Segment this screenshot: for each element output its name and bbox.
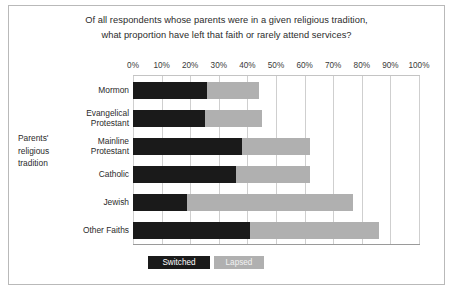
legend-label-lapsed: Lapsed (226, 258, 253, 267)
category-label-catholic: Catholic (11, 169, 129, 180)
bar-segment-lapsed (236, 166, 310, 183)
gridline-60 (305, 76, 306, 244)
bar-row (133, 194, 419, 211)
bar-segment-lapsed (205, 110, 262, 127)
bar-row (133, 110, 419, 127)
chart-title: Of all respondents whose parents were in… (30, 13, 423, 43)
gridline-100 (419, 76, 420, 244)
category-label-line: Evangelical (11, 108, 129, 119)
chart-title-line-2: what proportion have left that faith or … (30, 28, 423, 43)
category-label-line: Protestant (11, 118, 129, 129)
bar-segment-switched (133, 166, 236, 183)
category-label-evangelical-protestant: EvangelicalProtestant (11, 108, 129, 129)
category-label-mormon: Mormon (11, 85, 129, 96)
legend-item-lapsed: Lapsed (214, 256, 264, 269)
bar-segment-switched (133, 194, 187, 211)
category-label-line: Jewish (11, 197, 129, 208)
category-label-line: Protestant (11, 146, 129, 157)
bar-segment-lapsed (187, 194, 353, 211)
bar-row (133, 166, 419, 183)
chart-legend: Switched Lapsed (148, 256, 264, 269)
bar-segment-switched (133, 222, 250, 239)
bar-row (133, 222, 419, 239)
gridline-80 (362, 76, 363, 244)
y-axis-category-labels: MormonEvangelicalProtestantMainlineProte… (5, 76, 129, 244)
gridline-40 (247, 76, 248, 244)
x-axis-line (133, 244, 420, 245)
legend-label-switched: Switched (162, 258, 195, 267)
category-label-jewish: Jewish (11, 197, 129, 208)
gridline-0 (133, 76, 134, 244)
gridline-50 (276, 76, 277, 244)
gridline-10 (162, 76, 163, 244)
gridline-70 (333, 76, 334, 244)
bar-segment-lapsed (207, 82, 258, 99)
legend-item-switched: Switched (148, 256, 210, 269)
bar-segment-switched (133, 110, 205, 127)
x-axis-tick-100: 100% (399, 61, 439, 70)
category-label-mainline-protestant: MainlineProtestant (11, 136, 129, 157)
category-label-line: Other Faiths (11, 225, 129, 236)
category-label-line: Mormon (11, 85, 129, 96)
plot-area (133, 76, 419, 244)
bar-row (133, 82, 419, 99)
category-label-other-faiths: Other Faiths (11, 225, 129, 236)
bar-row (133, 138, 419, 155)
chart-title-line-1: Of all respondents whose parents were in… (30, 13, 423, 28)
gridline-30 (219, 76, 220, 244)
bar-segment-lapsed (250, 222, 379, 239)
bar-segment-switched (133, 138, 242, 155)
category-label-line: Catholic (11, 169, 129, 180)
chart-figure: Of all respondents whose parents were in… (0, 0, 453, 294)
gridline-90 (390, 76, 391, 244)
bar-segment-lapsed (242, 138, 311, 155)
bar-segment-switched (133, 82, 207, 99)
gridline-20 (190, 76, 191, 244)
category-label-line: Mainline (11, 136, 129, 147)
